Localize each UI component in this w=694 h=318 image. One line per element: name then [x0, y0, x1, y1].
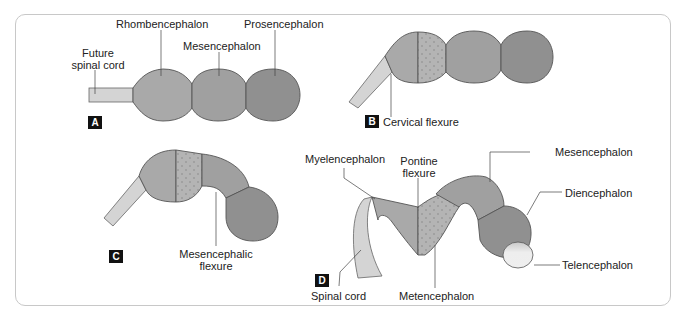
label-prosencephalon: Prosencephalon [244, 18, 324, 30]
prosencephalon-shape [246, 69, 300, 121]
label-diencephalon: Diencephalon [565, 187, 632, 199]
panel-badge-b: B [365, 115, 379, 128]
future-spinal-cord-shape [89, 88, 133, 102]
spinal-cord-shape [349, 56, 392, 108]
label-metencephalon: Metencephalon [399, 290, 474, 302]
label-mesencephalon-a: Mesencephalon [183, 40, 261, 52]
label-mesencephalon-d: Mesencephalon [555, 146, 633, 158]
label-telencephalon: Telencephalon [562, 259, 633, 271]
panel-d [339, 152, 562, 288]
mesencephalon-shape [192, 69, 246, 121]
label-mesencephalic-flexure: Mesencephalic flexure [177, 248, 255, 272]
metencephalon-dotted [418, 32, 446, 83]
panel-badge-a: A [88, 116, 102, 129]
panel-badge-d: D [315, 274, 329, 287]
label-pontine-flexure: Pontine flexure [398, 155, 440, 179]
label-future-spinal-cord: Future spinal cord [67, 47, 129, 71]
label-myelencephalon: Myelencephalon [305, 153, 385, 165]
panel-c [104, 150, 278, 246]
label-spinal-cord: Spinal cord [311, 290, 366, 302]
label-cervical-flexure: Cervical flexure [383, 116, 459, 128]
rhombencephalon-shape [133, 69, 192, 121]
panel-badge-c: C [109, 250, 123, 263]
label-rhombencephalon: Rhombencephalon [116, 18, 208, 30]
telencephalon-shape [503, 242, 533, 268]
panel-b [349, 31, 553, 117]
